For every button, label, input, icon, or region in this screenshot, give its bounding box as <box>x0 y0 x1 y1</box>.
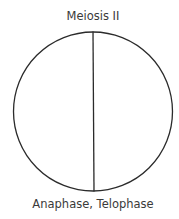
diagram-caption: Anaphase, Telophase <box>0 197 179 211</box>
cell-diagram <box>0 0 179 219</box>
division-line <box>93 32 94 192</box>
